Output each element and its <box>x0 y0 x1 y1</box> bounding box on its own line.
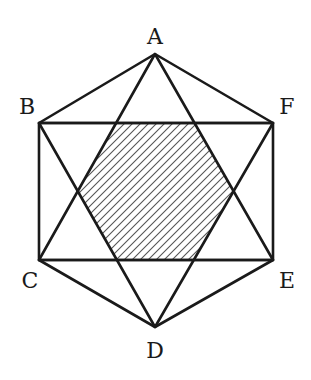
label-b: B <box>19 94 35 119</box>
label-e: E <box>279 268 295 293</box>
shaded-inner-hexagon <box>78 123 233 260</box>
label-f: F <box>279 94 294 119</box>
label-c: C <box>22 268 39 293</box>
label-d: D <box>146 338 164 363</box>
geometry-diagram: A B F C E D <box>0 0 311 380</box>
label-a: A <box>146 24 164 49</box>
